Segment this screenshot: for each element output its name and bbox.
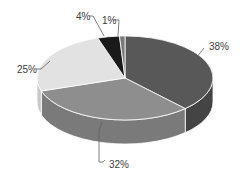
label-1: 1% [102,15,117,26]
label-4: 4% [76,11,91,22]
label-25: 25% [17,64,37,75]
label-38: 38% [209,41,229,52]
label-32: 32% [109,159,129,170]
pie-top-faces [37,36,213,120]
pie-chart-3d: 38% 32% 25% 4% 1% [0,0,240,185]
